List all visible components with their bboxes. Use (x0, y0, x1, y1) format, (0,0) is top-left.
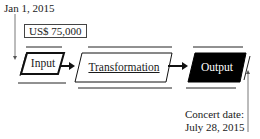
transformation-node-label: Transformation (80, 61, 168, 73)
start-date-label: Jan 1, 2015 (4, 2, 54, 14)
output-node-label: Output (193, 61, 241, 73)
start-arrowhead-icon (13, 56, 17, 60)
end-caption-line1: Concert date: (185, 108, 244, 120)
arrow-input-transformation-head-icon (69, 62, 75, 70)
input-node-label: Input (25, 57, 61, 69)
arrow-transformation-output-head-icon (182, 62, 188, 70)
end-caption-line2: July 28, 2015 (185, 121, 245, 133)
budget-value-box: US$ 75,000 (24, 24, 87, 38)
